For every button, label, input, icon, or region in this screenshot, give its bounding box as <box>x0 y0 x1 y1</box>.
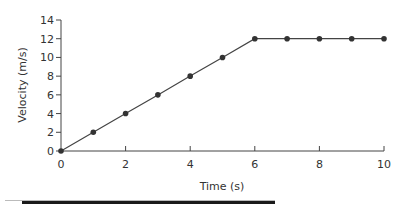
data-point <box>91 129 97 135</box>
x-tick-label: 4 <box>187 158 194 171</box>
data-point <box>123 111 129 117</box>
y-tick-label: 14 <box>40 14 54 27</box>
y-tick-label: 10 <box>40 51 54 64</box>
y-tick-label: 0 <box>47 145 54 158</box>
data-point <box>317 36 323 42</box>
velocity-time-chart: 02468101214 0246810 Time (s) Velocity (m… <box>0 0 407 204</box>
data-point <box>187 73 193 79</box>
footer-bar <box>5 200 275 204</box>
data-point <box>252 36 258 42</box>
x-tick-label: 2 <box>122 158 129 171</box>
data-point <box>284 36 290 42</box>
y-tick-label: 8 <box>47 70 54 83</box>
data-point <box>381 36 387 42</box>
y-axis-ticks: 02468101214 <box>40 14 61 158</box>
x-tick-label: 6 <box>251 158 258 171</box>
x-tick-label: 10 <box>377 158 391 171</box>
y-tick-label: 12 <box>40 33 54 46</box>
data-point <box>155 92 161 98</box>
y-tick-label: 4 <box>47 108 54 121</box>
data-point <box>220 55 226 61</box>
data-point <box>58 148 64 154</box>
data-point <box>349 36 355 42</box>
x-axis-label: Time (s) <box>199 180 245 193</box>
y-tick-label: 6 <box>47 89 54 102</box>
x-tick-label: 0 <box>58 158 65 171</box>
y-tick-label: 2 <box>47 126 54 139</box>
footer-bar-fill <box>22 201 275 204</box>
x-axis-ticks: 0246810 <box>58 146 392 171</box>
data-point-markers <box>58 36 387 154</box>
x-tick-label: 8 <box>316 158 323 171</box>
y-axis-label: Velocity (m/s) <box>16 47 29 122</box>
